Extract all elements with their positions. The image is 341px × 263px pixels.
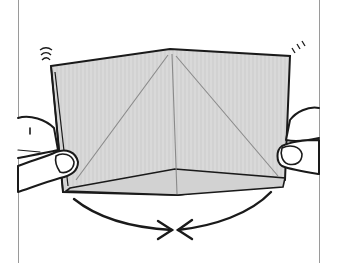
motion-lines-left [40,48,52,60]
arrows-converging [74,192,271,239]
origami-illustration [0,0,341,263]
motion-lines-right [292,41,305,53]
paper [51,49,290,195]
